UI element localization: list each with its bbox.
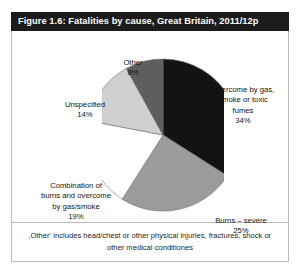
pie-label-other-text: Other bbox=[123, 58, 142, 67]
figure-footnote-area: ‚Other‘ includes head/chest or other phy… bbox=[12, 224, 288, 261]
pie-label-overcome-line3: fumes bbox=[233, 106, 254, 115]
pie-label-combination-line3: by gas/smoke bbox=[52, 202, 99, 211]
figure-title-bar: Figure 1.6: Fatalities by cause, Great B… bbox=[11, 12, 289, 31]
pie-label-combination-line1: Combination of bbox=[50, 181, 102, 190]
pie-label-overcome-line1: Overcome by gas, bbox=[212, 85, 274, 94]
pie-chart-area: Other 8% Overcome by gas, smoke or toxic… bbox=[12, 31, 288, 223]
pie-label-unspecified: Unspecified 14% bbox=[44, 100, 126, 121]
pie-label-overcome-percent: 34% bbox=[204, 116, 282, 126]
pie-label-combination-line2: burns and overcome bbox=[41, 191, 111, 200]
pie-label-unspecified-percent: 14% bbox=[44, 110, 126, 120]
figure-footnote: ‚Other‘ includes head/chest or other phy… bbox=[22, 230, 278, 253]
figure-panel: Other 8% Overcome by gas, smoke or toxic… bbox=[11, 31, 289, 262]
pie-label-overcome-line2: smoke or toxic bbox=[218, 95, 268, 104]
figure-title: Figure 1.6: Fatalities by cause, Great B… bbox=[18, 12, 259, 31]
pie-label-overcome: Overcome by gas, smoke or toxic fumes 34… bbox=[204, 85, 282, 127]
figure-container: Figure 1.6: Fatalities by cause, Great B… bbox=[11, 12, 289, 263]
pie-label-other-percent: 8% bbox=[100, 68, 166, 78]
pie-label-combination-percent: 19% bbox=[24, 212, 128, 222]
pie-label-unspecified-text: Unspecified bbox=[65, 100, 105, 109]
pie-label-other: Other 8% bbox=[100, 58, 166, 79]
pie-label-combination: Combination of burns and overcome by gas… bbox=[24, 181, 128, 223]
